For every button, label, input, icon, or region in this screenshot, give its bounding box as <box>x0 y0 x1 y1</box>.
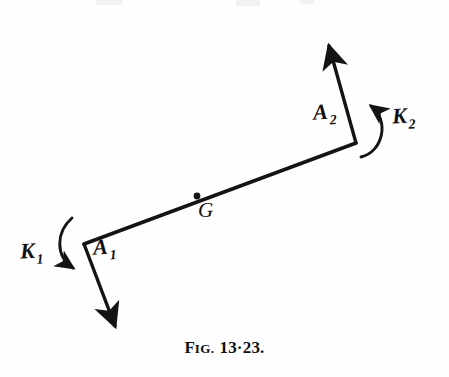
label-k1: K1 <box>19 239 42 262</box>
label-k2-base: K <box>391 103 407 129</box>
caption-prefix: F <box>184 338 194 357</box>
diagram-drawing <box>0 0 449 377</box>
label-g: G <box>198 200 213 221</box>
label-a2-base: A <box>312 99 329 125</box>
label-a1-base: A <box>92 234 109 260</box>
couple-arc-k1 <box>60 218 73 268</box>
caption-smallcaps: IG. <box>195 341 215 356</box>
label-a2-subscript: 2 <box>329 112 337 127</box>
label-a1-subscript: 1 <box>109 247 117 262</box>
label-a1: A1 <box>92 235 115 258</box>
figure-container: A1 A2 K1 K2 G FIG.13·23. <box>0 0 449 377</box>
rod-line <box>84 143 356 244</box>
figure-caption: FIG.13·23. <box>0 338 449 358</box>
label-k1-subscript: 1 <box>36 251 44 266</box>
force-arrow-a2 <box>329 46 356 143</box>
label-k1-base: K <box>19 238 35 264</box>
couple-arc-k2 <box>361 106 382 157</box>
label-k2: K2 <box>391 104 414 127</box>
label-a2: A2 <box>312 100 335 123</box>
caption-number: 13·23. <box>219 338 264 357</box>
label-k2-subscript: 2 <box>408 116 416 131</box>
